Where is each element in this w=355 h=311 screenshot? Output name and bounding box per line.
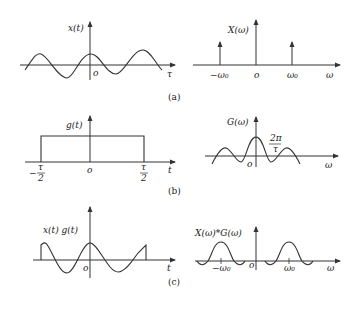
caption-a: (a)	[168, 92, 180, 102]
annot-num: 2π	[269, 133, 283, 143]
panel-c-left: x(t) g(t) o t	[33, 207, 175, 278]
origin-label: o	[247, 159, 253, 169]
tick-pos-w0: ω₀	[284, 263, 295, 273]
windowed-curve	[41, 243, 146, 273]
origin-label: o	[87, 165, 93, 175]
y-label: X(ω)	[227, 25, 249, 35]
panel-c-right: X(ω)*G(ω) −ω₀ o ω₀ ω	[194, 227, 340, 273]
y-label: G(ω)	[227, 117, 249, 127]
y-label: X(ω)*G(ω)	[194, 228, 242, 238]
panel-b-left: g(t) o t − τ 2 τ 2	[25, 116, 175, 183]
y-label: x(t)	[68, 23, 84, 33]
x-label: ω	[327, 263, 335, 273]
x-label: t	[167, 263, 171, 273]
tick-pos-num: τ	[141, 162, 147, 172]
x-label: ω	[325, 160, 333, 170]
tick-neg-num: τ	[38, 162, 44, 172]
caption-c: (c)	[168, 277, 180, 287]
y-label: x(t) g(t)	[43, 225, 78, 235]
x-label: ω	[326, 70, 334, 80]
tick-pos-w0: ω₀	[287, 70, 298, 80]
y-label: g(t)	[66, 120, 83, 130]
panel-b-right: G(ω) o ω 2π τ	[205, 117, 338, 170]
tick-neg-den: 2	[37, 173, 44, 183]
caption-b: (b)	[168, 186, 181, 196]
x-label: τ	[167, 69, 173, 79]
tick-neg-w0: −ω₀	[212, 263, 231, 273]
rect-pulse	[41, 136, 144, 162]
tick-pos-den: 2	[140, 173, 147, 183]
x-label: t	[168, 165, 172, 175]
neg-sign: −	[29, 168, 37, 178]
annot-den: τ	[273, 144, 279, 154]
figure-canvas: x(t) o τ X(ω) −ω₀ o ω₀ ω (a) g(t) o t − …	[0, 0, 355, 311]
origin-label: o	[249, 260, 255, 270]
origin-label: o	[254, 70, 260, 80]
origin-label: o	[93, 68, 99, 78]
tick-neg-w0: −ω₀	[210, 70, 229, 80]
panel-a-right: X(ω) −ω₀ o ω₀ ω	[193, 20, 340, 80]
origin-label: o	[83, 263, 89, 273]
panel-a-left: x(t) o τ	[20, 22, 175, 80]
